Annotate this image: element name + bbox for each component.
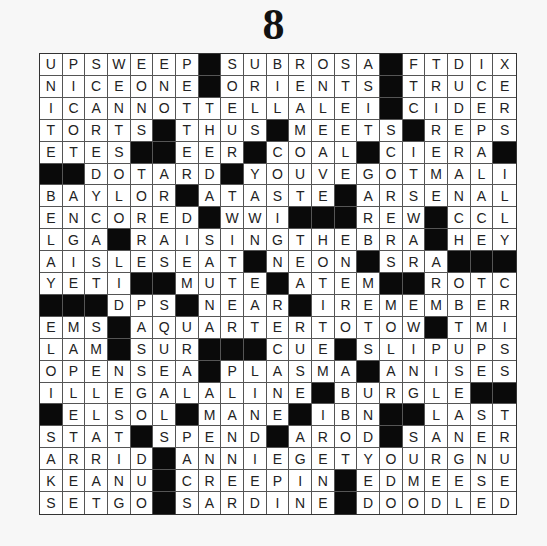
letter-cell[interactable]: M <box>63 317 86 339</box>
letter-cell[interactable]: T <box>357 120 380 142</box>
letter-cell[interactable]: T <box>199 98 222 120</box>
letter-cell[interactable]: A <box>471 142 494 164</box>
letter-cell[interactable]: H <box>312 229 335 251</box>
letter-cell[interactable]: T <box>221 251 244 273</box>
letter-cell[interactable]: N <box>312 76 335 98</box>
letter-cell[interactable]: E <box>289 76 312 98</box>
letter-cell[interactable]: E <box>221 98 244 120</box>
letter-cell[interactable]: B <box>448 295 471 317</box>
letter-cell[interactable]: E <box>63 470 86 492</box>
letter-cell[interactable]: R <box>131 229 154 251</box>
letter-cell[interactable]: R <box>493 98 516 120</box>
letter-cell[interactable]: A <box>357 54 380 76</box>
letter-cell[interactable]: R <box>425 448 448 470</box>
letter-cell[interactable]: T <box>403 76 426 98</box>
letter-cell[interactable]: I <box>267 492 290 514</box>
letter-cell[interactable]: T <box>221 185 244 207</box>
letter-cell[interactable]: R <box>425 273 448 295</box>
letter-cell[interactable]: I <box>471 54 494 76</box>
letter-cell[interactable]: T <box>335 448 358 470</box>
letter-cell[interactable]: A <box>85 229 108 251</box>
letter-cell[interactable]: I <box>403 142 426 164</box>
letter-cell[interactable]: Y <box>357 448 380 470</box>
letter-cell[interactable]: N <box>448 426 471 448</box>
letter-cell[interactable]: A <box>289 426 312 448</box>
letter-cell[interactable]: T <box>108 120 131 142</box>
letter-cell[interactable]: T <box>63 426 86 448</box>
letter-cell[interactable]: A <box>425 251 448 273</box>
letter-cell[interactable]: I <box>108 448 131 470</box>
letter-cell[interactable]: N <box>267 251 290 273</box>
letter-cell[interactable]: N <box>267 383 290 405</box>
letter-cell[interactable]: T <box>40 120 63 142</box>
letter-cell[interactable]: E <box>199 142 222 164</box>
letter-cell[interactable]: T <box>357 317 380 339</box>
letter-cell[interactable]: T <box>312 317 335 339</box>
letter-cell[interactable]: E <box>312 448 335 470</box>
letter-cell[interactable]: L <box>471 164 494 186</box>
letter-cell[interactable]: I <box>493 317 516 339</box>
letter-cell[interactable]: I <box>425 361 448 383</box>
letter-cell[interactable]: E <box>153 207 176 229</box>
letter-cell[interactable]: A <box>244 295 267 317</box>
letter-cell[interactable]: L <box>176 383 199 405</box>
letter-cell[interactable]: O <box>153 98 176 120</box>
letter-cell[interactable]: T <box>425 54 448 76</box>
letter-cell[interactable]: E <box>493 470 516 492</box>
letter-cell[interactable]: E <box>471 295 494 317</box>
letter-cell[interactable]: L <box>335 142 358 164</box>
letter-cell[interactable]: O <box>380 448 403 470</box>
letter-cell[interactable]: E <box>448 383 471 405</box>
letter-cell[interactable]: S <box>335 54 358 76</box>
letter-cell[interactable]: S <box>85 251 108 273</box>
letter-cell[interactable]: S <box>357 339 380 361</box>
letter-cell[interactable]: E <box>108 76 131 98</box>
letter-cell[interactable]: A <box>448 404 471 426</box>
letter-cell[interactable]: D <box>176 207 199 229</box>
letter-cell[interactable]: R <box>267 295 290 317</box>
letter-cell[interactable]: G <box>63 229 86 251</box>
letter-cell[interactable]: A <box>221 404 244 426</box>
letter-cell[interactable]: N <box>153 76 176 98</box>
letter-cell[interactable]: A <box>244 185 267 207</box>
letter-cell[interactable]: B <box>357 229 380 251</box>
letter-cell[interactable]: L <box>425 404 448 426</box>
letter-cell[interactable]: E <box>425 470 448 492</box>
letter-cell[interactable]: I <box>289 470 312 492</box>
letter-cell[interactable]: R <box>244 76 267 98</box>
letter-cell[interactable]: U <box>40 54 63 76</box>
letter-cell[interactable]: Q <box>153 317 176 339</box>
letter-cell[interactable]: N <box>335 251 358 273</box>
letter-cell[interactable]: I <box>244 448 267 470</box>
letter-cell[interactable]: A <box>85 98 108 120</box>
letter-cell[interactable]: M <box>289 120 312 142</box>
letter-cell[interactable]: T <box>108 426 131 448</box>
letter-cell[interactable]: E <box>63 273 86 295</box>
letter-cell[interactable]: S <box>108 142 131 164</box>
letter-cell[interactable]: A <box>471 185 494 207</box>
letter-cell[interactable]: P <box>176 426 199 448</box>
letter-cell[interactable]: E <box>131 54 154 76</box>
letter-cell[interactable]: I <box>425 98 448 120</box>
letter-cell[interactable]: E <box>40 142 63 164</box>
letter-cell[interactable]: S <box>493 120 516 142</box>
letter-cell[interactable]: N <box>289 492 312 514</box>
letter-cell[interactable]: E <box>199 426 222 448</box>
letter-cell[interactable]: U <box>289 339 312 361</box>
letter-cell[interactable]: L <box>380 339 403 361</box>
letter-cell[interactable]: B <box>335 404 358 426</box>
letter-cell[interactable]: M <box>312 361 335 383</box>
letter-cell[interactable]: O <box>403 492 426 514</box>
letter-cell[interactable]: T <box>335 76 358 98</box>
letter-cell[interactable]: P <box>131 295 154 317</box>
letter-cell[interactable]: E <box>357 470 380 492</box>
letter-cell[interactable]: R <box>199 470 222 492</box>
letter-cell[interactable]: L <box>244 361 267 383</box>
letter-cell[interactable]: S <box>153 426 176 448</box>
letter-cell[interactable]: G <box>131 383 154 405</box>
letter-cell[interactable]: Y <box>40 273 63 295</box>
letter-cell[interactable]: A <box>63 185 86 207</box>
letter-cell[interactable]: E <box>380 207 403 229</box>
letter-cell[interactable]: C <box>85 207 108 229</box>
letter-cell[interactable]: E <box>40 207 63 229</box>
